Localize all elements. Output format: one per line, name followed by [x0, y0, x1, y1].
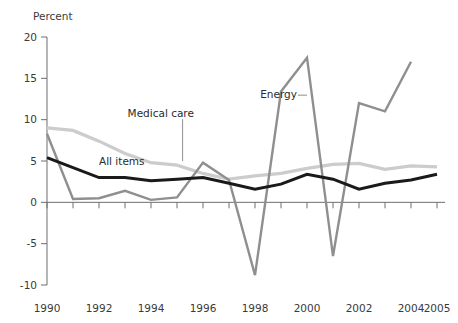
line-chart: 20151050-5-10 19901992199419961998200020… — [0, 0, 458, 323]
y-tick-label: -5 — [27, 237, 37, 249]
x-tick-label: 1990 — [34, 302, 61, 314]
y-tick-label: 5 — [30, 155, 37, 167]
series-label-energy: Energy — [260, 88, 297, 100]
y-tick-label: 15 — [24, 72, 37, 84]
x-tick-label: 2004 — [398, 302, 425, 314]
y-tick-label: 10 — [24, 113, 37, 125]
x-tick-label: 1992 — [86, 302, 113, 314]
x-tick-label: 2002 — [346, 302, 373, 314]
x-tick-label: 2000 — [294, 302, 321, 314]
y-tick-label: -10 — [20, 279, 37, 291]
y-tick-label: 20 — [24, 31, 37, 43]
y-axis-title: Percent — [33, 10, 73, 22]
chart-container: 20151050-5-10 19901992199419961998200020… — [0, 0, 458, 323]
x-axis: 199019921994199619982000200220042005 — [34, 202, 451, 314]
x-tick-label: 2005 — [424, 302, 451, 314]
y-tick-label: 0 — [30, 196, 37, 208]
y-axis: 20151050-5-10 — [20, 31, 47, 291]
series-label-all-items: All items — [99, 155, 145, 167]
x-tick-label: 1996 — [190, 302, 217, 314]
series-line-medical-care — [47, 128, 437, 179]
x-tick-label: 1998 — [242, 302, 269, 314]
x-tick-label: 1994 — [138, 302, 165, 314]
series-label-medical-care: Medical care — [128, 107, 194, 119]
